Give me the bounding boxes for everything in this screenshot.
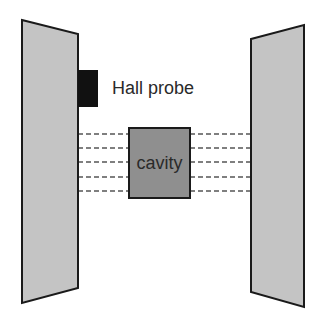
left-pole-plate bbox=[22, 20, 78, 303]
hall-probe bbox=[78, 70, 98, 107]
cavity-label: cavity bbox=[136, 153, 182, 173]
magnet-diagram: Hall probe cavity bbox=[0, 0, 319, 317]
hall-probe-label: Hall probe bbox=[112, 78, 194, 98]
right-pole-plate bbox=[251, 25, 304, 307]
